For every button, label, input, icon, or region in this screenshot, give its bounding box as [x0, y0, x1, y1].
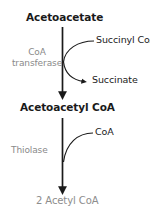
enzyme-coa-transferase-line2: transferase — [6, 59, 68, 68]
substrate-coa: CoA — [95, 127, 114, 137]
product-succinate: Succinate — [92, 75, 138, 85]
node-acetyl-coa: 2 Acetyl CoA — [36, 196, 98, 207]
pathway-diagram: Acetoacetate CoA transferase Succinyl Co… — [0, 0, 150, 220]
node-acetoacetyl-coa: Acetoacetyl CoA — [20, 102, 115, 113]
curve-coa-in — [64, 133, 94, 162]
substrate-succinyl-coa: Succinyl CoA — [96, 35, 150, 45]
enzyme-coa-transferase-line1: CoA — [6, 48, 68, 57]
curve-succinyl-coa-in — [64, 41, 95, 62]
enzyme-thiolase: Thiolase — [11, 146, 48, 155]
node-acetoacetate: Acetoacetate — [26, 12, 103, 23]
